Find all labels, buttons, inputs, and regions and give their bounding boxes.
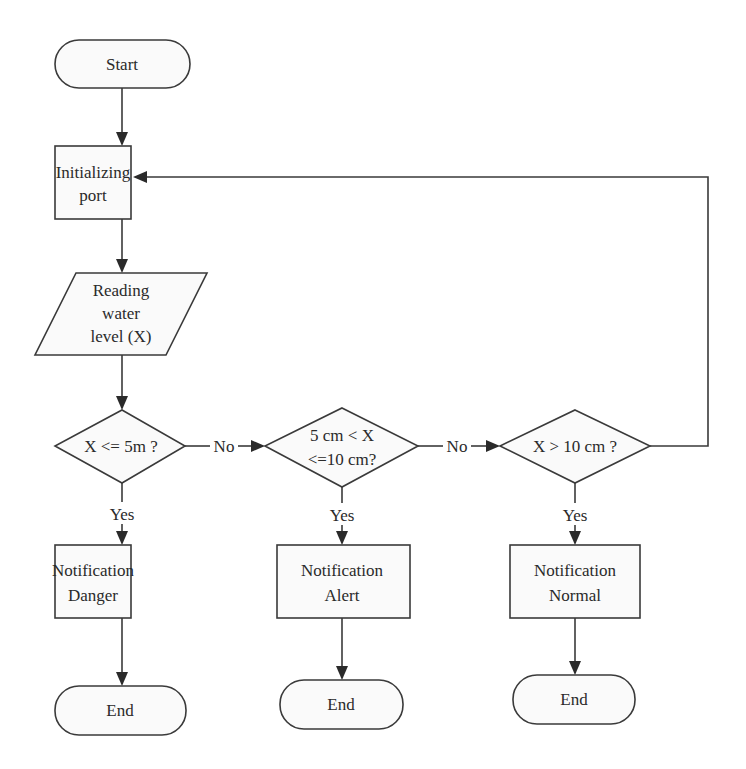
process-shape <box>277 545 410 618</box>
arrowhead-icon <box>569 531 581 545</box>
node-end3-label: End <box>560 690 588 709</box>
node-read-line1: Reading <box>93 281 150 300</box>
node-notify-danger-line1: Notification <box>52 561 135 580</box>
edge-label-decision2-yes: Yes <box>330 506 355 525</box>
arrowhead-icon <box>133 171 147 183</box>
node-start: Start <box>55 40 190 88</box>
node-decision2-line1: 5 cm < X <box>310 426 374 445</box>
node-read: Reading water level (X) <box>35 273 207 355</box>
arrowhead-icon <box>116 531 128 545</box>
node-notify-normal: Notification Normal <box>510 545 640 618</box>
flowchart-canvas: No No Yes Yes Yes Start Initializing por… <box>0 0 746 769</box>
arrowhead-icon <box>116 132 128 146</box>
arrowhead-icon <box>486 440 500 452</box>
node-decision3: X > 10 cm ? <box>500 410 650 483</box>
node-notify-danger: Notification Danger <box>52 545 135 618</box>
arrowhead-icon <box>116 259 128 273</box>
edge-label-decision1-no: No <box>214 437 235 456</box>
process-shape <box>55 146 131 219</box>
decision-shape <box>265 408 418 487</box>
node-end3: End <box>513 675 635 724</box>
arrowhead-icon <box>336 531 348 545</box>
node-init-line2: port <box>79 186 107 205</box>
arrowhead-icon <box>336 666 348 680</box>
process-shape <box>510 545 640 618</box>
arrowhead-icon <box>116 396 128 410</box>
node-decision3-label: X > 10 cm ? <box>533 437 617 456</box>
node-notify-normal-line2: Normal <box>549 586 601 605</box>
arrowhead-icon <box>251 440 265 452</box>
node-notify-alert: Notification Alert <box>277 545 410 618</box>
node-decision1: X <= 5m ? <box>55 410 185 483</box>
node-notify-danger-line2: Danger <box>68 586 118 605</box>
node-end1: End <box>55 686 186 735</box>
node-end2: End <box>280 680 403 729</box>
node-start-label: Start <box>106 55 138 74</box>
node-decision2: 5 cm < X <=10 cm? <box>265 408 418 487</box>
edge-label-decision2-no: No <box>447 437 468 456</box>
arrowhead-icon <box>116 672 128 686</box>
node-notify-normal-line1: Notification <box>534 561 617 580</box>
edge-label-decision3-yes: Yes <box>563 506 588 525</box>
node-notify-alert-line2: Alert <box>325 586 360 605</box>
edge-label-decision1-yes: Yes <box>110 505 135 524</box>
node-decision1-label: X <= 5m ? <box>84 437 157 456</box>
edge-decision3-init-loop <box>145 177 708 446</box>
node-end2-label: End <box>327 695 355 714</box>
node-init: Initializing port <box>55 146 131 219</box>
node-notify-alert-line1: Notification <box>301 561 384 580</box>
arrowhead-icon <box>569 661 581 675</box>
node-read-line3: level (X) <box>91 327 152 346</box>
node-decision2-line2: <=10 cm? <box>308 450 377 469</box>
node-end1-label: End <box>106 701 134 720</box>
node-read-line2: water <box>102 304 140 323</box>
node-init-line1: Initializing <box>56 163 131 182</box>
process-shape <box>55 545 131 618</box>
